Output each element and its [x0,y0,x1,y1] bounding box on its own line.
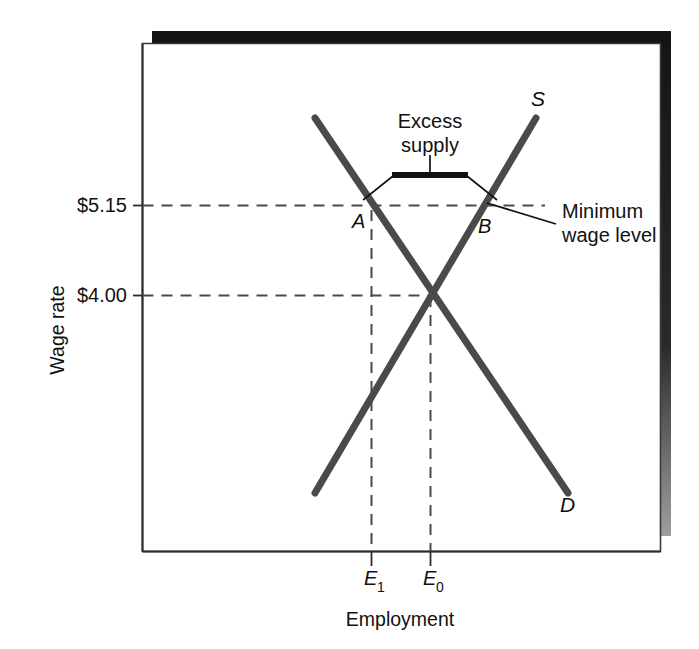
y-tick-label-400: $4.00 [77,284,127,306]
excess-supply-line1: Excess [398,110,462,132]
minimum-wage-line1: Minimum [562,200,643,222]
x-tick-label-e1-base: E [364,567,378,589]
point-label-a: A [351,210,365,232]
point-label-b: B [478,215,491,237]
demand-curve-label: D [560,493,575,516]
supply-curve-label: S [531,87,545,110]
minimum-wage-line2: wage level [561,224,657,246]
x-tick-label-e0-base: E [423,567,437,589]
x-tick-label-e1-subscript: 1 [377,579,385,595]
x-axis-title: Employment [346,608,455,630]
excess-supply-line2: supply [401,134,459,156]
x-tick-label-e0-subscript: 0 [436,579,444,595]
y-axis-title: Wage rate [46,285,68,374]
minimum-wage-diagram: $5.15 $4.00 Wage rate E 1 E 0 Employment… [0,0,699,649]
y-tick-label-515: $5.15 [77,194,127,216]
